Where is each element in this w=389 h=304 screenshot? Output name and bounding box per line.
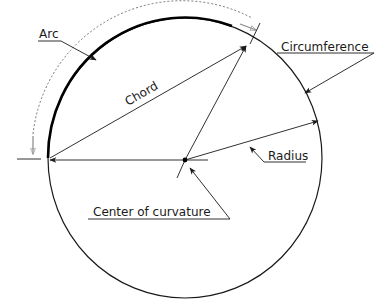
extension-line-top <box>250 23 260 44</box>
arc-dimension-arrow-right <box>240 24 256 30</box>
chord-label: Chord <box>123 79 161 109</box>
radius-label: Radius <box>268 149 308 163</box>
arc-label: Arc <box>39 27 58 41</box>
center-label: Center of curvature <box>93 205 211 219</box>
circumference-leader <box>305 53 374 93</box>
circumference-label: Circumference <box>281 40 369 54</box>
center-point <box>183 158 188 163</box>
circle-parts-diagram: Arc Chord Circumference Radius Center of… <box>0 0 389 304</box>
radius-extension-down <box>177 160 185 178</box>
chord-line <box>50 46 246 158</box>
arc-leader <box>61 41 96 60</box>
radius-leader <box>250 147 264 162</box>
